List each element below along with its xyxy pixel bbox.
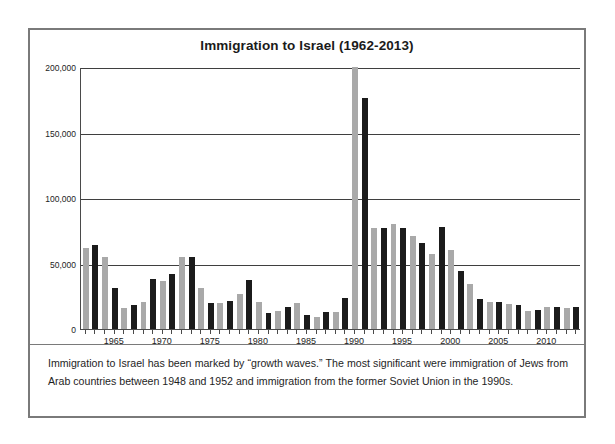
bar (189, 257, 195, 329)
bar (323, 312, 329, 329)
bar (275, 311, 281, 329)
bar (208, 303, 214, 329)
bar (266, 313, 272, 330)
y-axis-tick-label: 200,000 (16, 63, 76, 73)
x-axis-tick-mark (258, 330, 259, 334)
x-axis-tick-mark (162, 330, 163, 334)
x-axis-tick-mark (104, 330, 105, 334)
x-axis-tick-mark (441, 330, 442, 334)
bar (419, 243, 425, 329)
bar (217, 303, 223, 329)
caption-box: Immigration to Israel has been marked by… (30, 344, 584, 416)
x-axis-tick-mark (412, 330, 413, 334)
bar (256, 302, 262, 329)
bar (544, 307, 550, 329)
bar (362, 98, 368, 329)
x-axis-tick-mark (316, 330, 317, 334)
bar (141, 302, 147, 329)
x-axis-tick-mark (114, 330, 115, 334)
bar (102, 257, 108, 329)
x-axis-tick-mark (171, 330, 172, 334)
x-axis-tick-mark (354, 330, 355, 334)
bar (227, 301, 233, 329)
bar (160, 281, 166, 329)
x-axis-tick-mark (469, 330, 470, 334)
bar (429, 254, 435, 329)
x-axis-tick-mark (210, 330, 211, 334)
x-axis-tick-mark (85, 330, 86, 334)
x-axis-tick-mark (219, 330, 220, 334)
x-axis-tick-mark (566, 330, 567, 334)
x-axis-tick-mark (239, 330, 240, 334)
x-axis-tick-mark (123, 330, 124, 334)
bar (342, 298, 348, 329)
x-axis-tick-mark (248, 330, 249, 334)
bar (92, 245, 98, 329)
x-axis-tick-mark (287, 330, 288, 334)
bar (237, 294, 243, 329)
bar (112, 288, 118, 329)
bar (333, 312, 339, 329)
x-axis-tick-mark (489, 330, 490, 334)
bar (458, 271, 464, 329)
x-axis-tick-mark (373, 330, 374, 334)
x-axis-tick-mark (527, 330, 528, 334)
bar (150, 279, 156, 329)
x-axis-tick-mark (556, 330, 557, 334)
x-axis-tick-mark (508, 330, 509, 334)
x-axis-tick-mark (575, 330, 576, 334)
bar (371, 228, 377, 329)
bar (179, 257, 185, 329)
x-axis-tick-mark (133, 330, 134, 334)
bar (400, 228, 406, 329)
x-axis-tick-mark (364, 330, 365, 334)
x-axis-tick-mark (335, 330, 336, 334)
bar (516, 305, 522, 329)
x-axis-tick-mark (229, 330, 230, 334)
x-axis-tick-mark (450, 330, 451, 334)
bar (294, 303, 300, 329)
x-axis-tick-mark (268, 330, 269, 334)
bar (131, 305, 137, 329)
bar (381, 228, 387, 329)
x-axis-tick-mark (325, 330, 326, 334)
bar (564, 308, 570, 329)
y-axis-tick-label: 100,000 (16, 194, 76, 204)
bar (477, 299, 483, 329)
caption-text: Immigration to Israel has been marked by… (48, 354, 568, 390)
x-axis-tick-mark (296, 330, 297, 334)
bar (83, 248, 89, 329)
x-axis-tick-mark (277, 330, 278, 334)
bar (285, 307, 291, 329)
bar (304, 315, 310, 329)
x-axis-tick-mark (431, 330, 432, 334)
x-axis-tick-mark (383, 330, 384, 334)
x-axis-tick-mark (344, 330, 345, 334)
bar (352, 67, 358, 329)
bar (535, 310, 541, 329)
x-axis-tick-mark (518, 330, 519, 334)
chart-title: Immigration to Israel (1962-2013) (30, 38, 584, 53)
bar (448, 250, 454, 329)
bar (391, 224, 397, 329)
bar (487, 302, 493, 330)
x-axis-tick-mark (143, 330, 144, 334)
bar (439, 227, 445, 329)
x-axis-tick-mark (393, 330, 394, 334)
x-axis-tick-mark (546, 330, 547, 334)
x-axis-tick-mark (94, 330, 95, 334)
x-axis-tick-mark (421, 330, 422, 334)
x-axis-tick-mark (181, 330, 182, 334)
bar (121, 308, 127, 329)
y-axis-tick-label: 50,000 (16, 260, 76, 270)
bar (506, 304, 512, 329)
x-axis-tick-mark (402, 330, 403, 334)
bar (246, 280, 252, 329)
figure-frame: Immigration to Israel (1962-2013) 050,00… (28, 28, 586, 418)
x-axis-tick-mark (460, 330, 461, 334)
x-axis-tick-mark (152, 330, 153, 334)
bar (198, 288, 204, 329)
bar (169, 274, 175, 329)
bar (410, 236, 416, 329)
x-axis-tick-mark (479, 330, 480, 334)
